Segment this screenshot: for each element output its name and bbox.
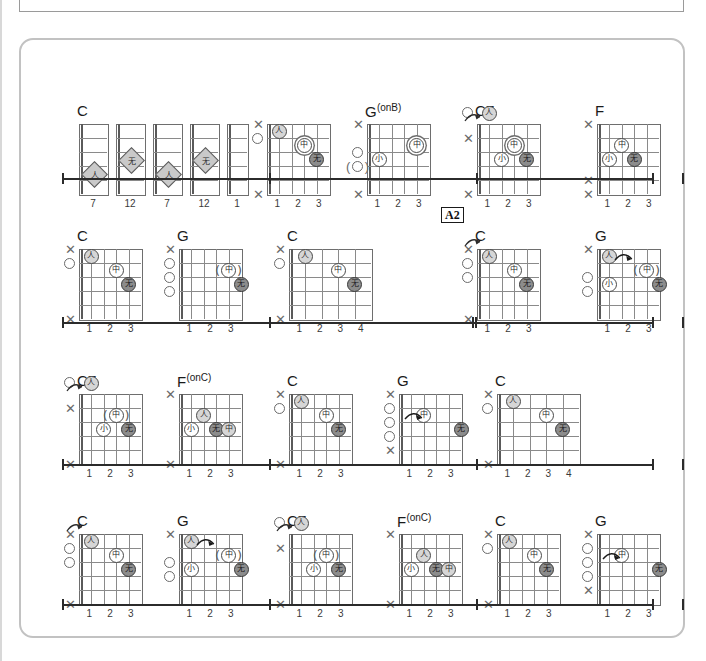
fret-number: 3 xyxy=(330,468,351,479)
fret-line xyxy=(477,138,539,139)
barline-tick xyxy=(476,173,478,184)
open-string-marker xyxy=(582,543,593,554)
open-string-marker xyxy=(164,272,175,283)
barline-tick xyxy=(62,317,64,328)
finger-marker: 无 xyxy=(234,277,249,292)
string-line xyxy=(116,534,117,604)
fret-number-row: 123 xyxy=(179,323,241,334)
open-string-marker xyxy=(384,431,395,442)
fret-line xyxy=(399,436,461,437)
fret-number-row: 123 xyxy=(289,468,351,479)
finger-marker: 中 xyxy=(221,263,236,278)
finger-marker: 中 xyxy=(639,263,654,278)
open-string-marker xyxy=(582,272,593,283)
string-line xyxy=(522,534,523,604)
fret-number: 2 xyxy=(310,608,331,619)
string-line xyxy=(424,394,425,464)
mute-marker: ✕ xyxy=(583,174,594,187)
fret-line xyxy=(497,436,579,437)
nut-bar xyxy=(229,124,231,194)
string-line xyxy=(647,249,648,319)
fret-number: 3 xyxy=(330,608,351,619)
string-line xyxy=(104,249,105,319)
barline-tick-end xyxy=(652,599,654,610)
nut-bar xyxy=(81,394,83,464)
open-string-marker xyxy=(384,403,395,414)
finger-marker: 无 xyxy=(309,152,324,167)
mute-marker: ✕ xyxy=(275,243,286,256)
chord-name: G xyxy=(595,227,607,244)
open-string-marker xyxy=(384,417,395,428)
fret-number-row: 123 xyxy=(79,468,141,479)
fret-line xyxy=(477,180,539,181)
position-shift-arrow-icon xyxy=(613,250,642,264)
string-line xyxy=(116,249,117,319)
fret-number: 1 xyxy=(497,608,518,619)
chord-diagram: F✕✕✕小中无123 xyxy=(583,102,675,212)
fret-number: 1 xyxy=(399,608,420,619)
finger-marker: 中 xyxy=(297,138,312,153)
nut-bar xyxy=(499,394,501,464)
string-line xyxy=(502,249,503,319)
finger-marker: 人 xyxy=(84,249,99,264)
mute-marker: ✕ xyxy=(275,388,286,401)
fret-number: 2 xyxy=(100,468,121,479)
fret-number: 3 xyxy=(120,323,141,334)
fret-line xyxy=(399,450,461,451)
fret-line xyxy=(289,590,351,591)
fret-number-row: 123 xyxy=(399,468,461,479)
fret-number-row: 123 xyxy=(179,468,241,479)
chord-diagram: G(onB)✕✕小中123 xyxy=(353,102,445,212)
nut-bar xyxy=(81,124,83,194)
open-string-marker xyxy=(582,571,593,582)
nut-bar xyxy=(291,394,293,464)
finger-marker: 无 xyxy=(652,562,667,577)
fret-number-row: 123 xyxy=(79,608,141,619)
slide-arrow-icon xyxy=(463,110,493,126)
position-shift-arrow-icon xyxy=(195,535,224,549)
string-line xyxy=(392,124,393,194)
chord-diagram: G✕中无123 xyxy=(165,227,257,337)
chord-name: G xyxy=(397,372,409,389)
chord-name: G xyxy=(595,512,607,529)
chord-diagram: C7✕✕人小中无123 xyxy=(463,102,555,212)
fret-number: 3 xyxy=(120,608,141,619)
mute-marker: ✕ xyxy=(275,313,286,326)
chord-diagram: ✕✕人中无123 xyxy=(253,102,345,212)
mute-marker: ✕ xyxy=(483,528,494,541)
measure-rule xyxy=(62,464,654,466)
string-line xyxy=(489,124,490,194)
finger-marker: 中 xyxy=(109,548,124,563)
string-line xyxy=(436,394,437,464)
mute-marker: ✕ xyxy=(165,528,176,541)
fret-number: 3 xyxy=(220,468,241,479)
barline-tick xyxy=(682,317,684,328)
fret-number: 1 xyxy=(289,608,310,619)
chord-row: C✕✕人中无123G✕人小中无123C7✕✕人小中无123F(onC)✕✕小人无… xyxy=(0,490,706,630)
fret-number: 2 xyxy=(518,608,539,619)
finger-marker: 人 xyxy=(416,548,431,563)
barline-tick xyxy=(269,599,271,610)
fret-line xyxy=(227,180,247,181)
slide-arrow-icon xyxy=(65,380,95,396)
fret-line xyxy=(227,152,247,153)
chord-row: C7✕✕人小中无123F(onC)✕✕小人无中123C✕✕人中无123G✕✕中无… xyxy=(0,350,706,490)
mute-marker: ✕ xyxy=(483,388,494,401)
finger-marker: 无 xyxy=(121,562,136,577)
fret-line xyxy=(289,450,351,451)
nut-bar xyxy=(181,249,183,319)
nut-bar xyxy=(599,534,601,604)
mute-marker: ✕ xyxy=(463,188,474,201)
fret-number-row: 1234 xyxy=(497,468,579,479)
fret-number: 1 xyxy=(179,323,200,334)
barline-tick xyxy=(476,459,478,470)
measure-rule xyxy=(62,604,654,606)
finger-marker: 中 xyxy=(319,408,334,423)
string-line xyxy=(301,534,302,604)
finger-marker: 无 xyxy=(627,152,642,167)
fret-line xyxy=(179,305,241,306)
finger-marker: 人 xyxy=(506,394,521,409)
string-line xyxy=(411,394,412,464)
mute-marker: ✕ xyxy=(275,542,286,555)
fret-number: 2 xyxy=(310,468,331,479)
